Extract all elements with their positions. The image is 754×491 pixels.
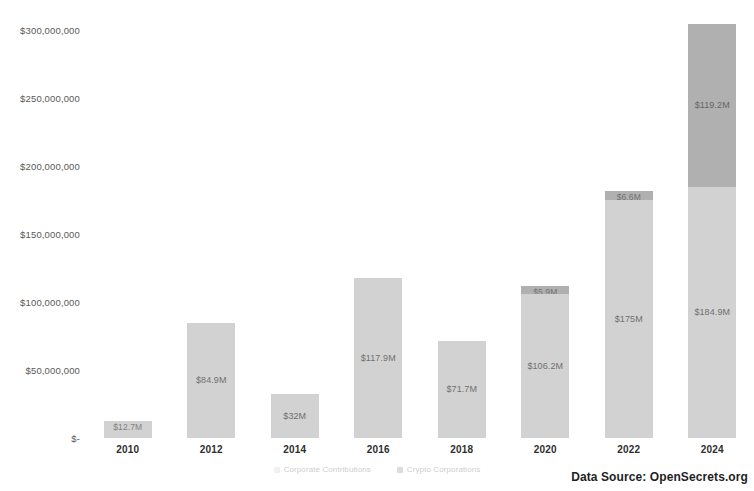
y-axis-tick-label: $100,000,000 bbox=[2, 297, 80, 308]
legend-item-corporate-contributions[interactable]: Corporate Contributions bbox=[274, 465, 371, 474]
bar-segment[interactable]: $32M bbox=[271, 394, 319, 438]
y-axis-tick-label: $50,000,000 bbox=[2, 365, 80, 376]
bar-value-label: $84.9M bbox=[187, 375, 235, 385]
bar-segment[interactable]: $71.7M bbox=[438, 341, 486, 439]
bar-stack: $6.6M$175M bbox=[605, 191, 653, 438]
bar-segment[interactable]: $175M bbox=[605, 200, 653, 438]
y-axis-tick-label: $200,000,000 bbox=[2, 161, 80, 172]
y-axis-tick-label: $150,000,000 bbox=[2, 229, 80, 240]
bar-value-label: $6.6M bbox=[605, 192, 653, 200]
bar-segment[interactable]: $6.6M bbox=[605, 191, 653, 200]
y-axis: $-$50,000,000$100,000,000$150,000,000$20… bbox=[0, 0, 86, 440]
bar-value-label: $32M bbox=[271, 411, 319, 421]
bar-segment[interactable]: $184.9M bbox=[688, 187, 736, 438]
x-axis-tick-label: 2016 bbox=[354, 444, 402, 455]
legend-swatch-icon bbox=[397, 467, 403, 473]
bar-value-label: $184.9M bbox=[688, 307, 736, 317]
bar-segment[interactable]: $5.9M bbox=[521, 286, 569, 294]
x-axis-tick-label: 2010 bbox=[104, 444, 152, 455]
bar-stack: $12.7M bbox=[104, 421, 152, 438]
x-axis-tick-label: 2012 bbox=[187, 444, 235, 455]
bar-value-label: $175M bbox=[605, 314, 653, 324]
x-axis: 20102012201420162018202020222024 bbox=[86, 444, 754, 462]
bar-value-label: $119.2M bbox=[688, 100, 736, 110]
x-axis-tick-label: 2022 bbox=[605, 444, 653, 455]
bar-stack: $119.2M$184.9M bbox=[688, 24, 736, 438]
y-axis-tick-label: $- bbox=[2, 433, 80, 444]
legend-item-crypto-corporations[interactable]: Crypto Corporations bbox=[397, 465, 481, 474]
x-axis-tick-label: 2020 bbox=[521, 444, 569, 455]
bar-stack: $5.9M$106.2M bbox=[521, 286, 569, 438]
y-axis-tick-label: $300,000,000 bbox=[2, 25, 80, 36]
bar-value-label: $117.9M bbox=[354, 353, 402, 363]
bar-chart: $-$50,000,000$100,000,000$150,000,000$20… bbox=[0, 0, 754, 491]
legend-item-label: Corporate Contributions bbox=[284, 465, 371, 474]
bar-segment[interactable]: $117.9M bbox=[354, 278, 402, 438]
legend-swatch-icon bbox=[274, 467, 280, 473]
bar-segment[interactable]: $12.7M bbox=[104, 421, 152, 438]
data-source-note: Data Source: OpenSecrets.org bbox=[571, 470, 748, 484]
bar-segment[interactable]: $119.2M bbox=[688, 24, 736, 186]
x-axis-tick-label: 2024 bbox=[688, 444, 736, 455]
bar-stack: $71.7M bbox=[438, 341, 486, 439]
bar-stack: $32M bbox=[271, 394, 319, 438]
legend-item-label: Crypto Corporations bbox=[407, 465, 481, 474]
bar-value-label: $5.9M bbox=[521, 287, 569, 294]
plot-area: $12.7M$84.9M$32M$117.9M$71.7M$5.9M$106.2… bbox=[86, 8, 754, 438]
bar-segment[interactable]: $106.2M bbox=[521, 294, 569, 438]
bar-value-label: $106.2M bbox=[521, 361, 569, 371]
y-axis-tick-label: $250,000,000 bbox=[2, 93, 80, 104]
bar-value-label: $71.7M bbox=[438, 384, 486, 394]
bar-value-label: $12.7M bbox=[104, 422, 152, 432]
bar-stack: $117.9M bbox=[354, 278, 402, 438]
bar-segment[interactable]: $84.9M bbox=[187, 323, 235, 438]
bar-stack: $84.9M bbox=[187, 323, 235, 438]
x-axis-tick-label: 2018 bbox=[438, 444, 486, 455]
x-axis-tick-label: 2014 bbox=[271, 444, 319, 455]
